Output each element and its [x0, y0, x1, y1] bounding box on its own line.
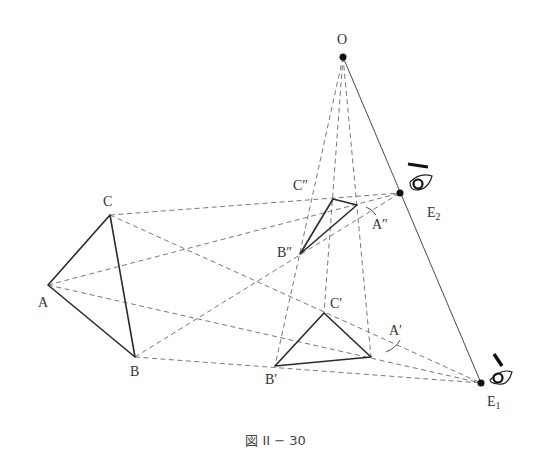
eye-icon-e2	[408, 164, 432, 190]
label-a1: A′	[389, 323, 402, 338]
projection-lines-e2	[48, 193, 400, 357]
figure-caption: 図 II − 30	[0, 430, 551, 449]
point-o	[340, 54, 347, 61]
label-a2: A″	[372, 217, 388, 232]
arrow-a2	[366, 207, 376, 215]
triangle-a2b2c2	[300, 199, 357, 254]
label-a: A	[38, 295, 49, 310]
projection-lines-o	[275, 57, 371, 366]
label-b: B	[130, 364, 139, 379]
label-c1: C′	[330, 296, 342, 311]
label-b2: B″	[277, 245, 292, 260]
label-o: O	[337, 32, 347, 47]
label-c: C	[103, 194, 112, 209]
label-e1: E1	[487, 394, 501, 411]
eye-icon-e1	[490, 354, 512, 384]
label-c2: C″	[293, 178, 308, 193]
line-o-e1	[343, 57, 481, 383]
label-e2: E2	[427, 205, 441, 222]
triangle-abc	[48, 215, 135, 357]
point-e1	[478, 380, 485, 387]
perspective-projection-diagram: O A B C A′ B′ C′ A″ B″ C″ E2 E1	[0, 0, 551, 471]
arrow-a1	[386, 340, 400, 352]
projection-lines-e1	[48, 215, 481, 383]
point-e2	[397, 190, 404, 197]
label-b1: B′	[265, 372, 277, 387]
